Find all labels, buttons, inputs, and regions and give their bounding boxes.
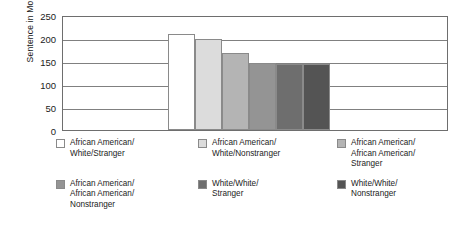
legend-item: African American/ African American/ Stra… <box>319 138 460 170</box>
legend-item: African American/ White/Stranger <box>56 138 198 170</box>
legend-item: White/White/ Nonstranger <box>319 179 460 211</box>
bar-4 <box>276 64 303 130</box>
y-tick-label-0: 0 <box>10 126 56 137</box>
legend-item-label: African American/ White/Nonstranger <box>212 138 280 159</box>
legend-swatch-icon <box>198 139 207 148</box>
legend-item-label: White/White/ Nonstranger <box>351 179 397 200</box>
legend-item-label: White/White/ Stranger <box>212 179 258 200</box>
legend-swatch-icon <box>56 139 65 148</box>
chart-legend: African American/ White/StrangerAfrican … <box>56 138 460 210</box>
bar-chart-figure: Sentence in Months 050100150200250 Afric… <box>0 0 471 234</box>
bar-2 <box>222 53 249 130</box>
bar-5 <box>303 64 330 130</box>
plot-area <box>62 16 448 131</box>
legend-row: African American/ White/StrangerAfrican … <box>56 138 460 170</box>
legend-item-label: African American/ African American/ Stra… <box>351 138 415 170</box>
legend-swatch-icon <box>337 180 346 189</box>
y-tick-label-150: 150 <box>10 57 56 68</box>
y-tick-label-50: 50 <box>10 103 56 114</box>
legend-item-label: African American/ White/Stranger <box>70 138 134 159</box>
legend-item: African American/ African American/ Nons… <box>56 179 198 211</box>
legend-item-label: African American/ African American/ Nons… <box>70 179 134 211</box>
y-tick-label-200: 200 <box>10 34 56 45</box>
y-tick-label-250: 250 <box>10 11 56 22</box>
bar-3 <box>249 63 276 130</box>
bar-1 <box>195 39 222 130</box>
legend-swatch-icon <box>337 139 346 148</box>
bar-series <box>63 17 447 130</box>
y-tick-label-100: 100 <box>10 80 56 91</box>
bar-0 <box>168 34 195 130</box>
legend-row: African American/ African American/ Nons… <box>56 179 460 211</box>
legend-swatch-icon <box>198 180 207 189</box>
legend-item: White/White/ Stranger <box>198 179 319 211</box>
legend-swatch-icon <box>56 180 65 189</box>
legend-item: African American/ White/Nonstranger <box>198 138 319 170</box>
